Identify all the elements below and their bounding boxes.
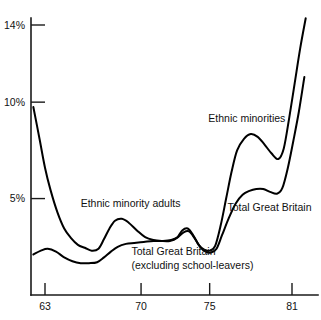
y-tick-label-14: 14% (4, 19, 25, 31)
y-tick-label-5: 5% (10, 192, 25, 204)
unemployment-line-chart: 5%10%14% 63707581 Ethnic minority adults… (0, 0, 321, 320)
annotation-total-great-britain-excluding-line2: (excluding school-leavers) (131, 259, 253, 271)
x-tick-label-70: 70 (135, 300, 147, 312)
series-lines (33, 18, 305, 263)
annotation-total-great-britain-excluding-line1: Total Great Britain (131, 245, 215, 257)
annotation-total-great-britain: Total Great Britain (228, 201, 312, 213)
series-line-ethnic-minorities (33, 18, 305, 251)
x-tick-label-75: 75 (204, 300, 216, 312)
x-tick-label-81: 81 (286, 300, 298, 312)
annotation-ethnic-minorities: Ethnic minorities (208, 112, 285, 124)
annotation-ethnic-minority-adults: Ethnic minority adults (81, 197, 181, 209)
x-axis-ticks: 63707581 (39, 283, 298, 312)
series-line-total-great-britain (33, 77, 304, 263)
y-tick-label-10: 10% (4, 96, 25, 108)
x-tick-label-63: 63 (39, 300, 51, 312)
y-axis-ticks: 5%10%14% (4, 19, 45, 205)
chart-container: 5%10%14% 63707581 Ethnic minority adults… (0, 0, 321, 320)
